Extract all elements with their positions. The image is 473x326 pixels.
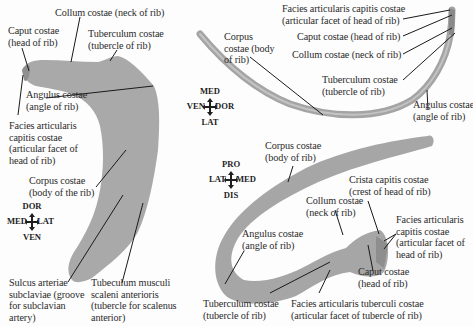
label-tuberculum-costae-first: Tuberculum costae (tubercle of rib) (88, 28, 164, 51)
orientation-compass-first: DOR MED LAT VEN (8, 202, 56, 242)
label-sulcus-arteriae: Sulcus arteriae subclaviae (groove for s… (9, 277, 84, 323)
label-collum-costae-posterior: Collum costae (neck of rib) (306, 195, 363, 218)
compass-right: MED (236, 175, 256, 184)
compass-left: MED (7, 217, 27, 226)
compass-right: LAT (37, 217, 54, 226)
label-tuberculum-costae-posterior: Tuberculum costae (tubercle of rib) (203, 298, 279, 321)
orientation-compass-posterior: PRO LAT MED DIS (207, 160, 255, 200)
orientation-compass-lateral: MED VEN DOR LAT (186, 87, 234, 127)
compass-top: DOR (8, 202, 56, 211)
label-collum-costae-lateral: Collum costae (neck of rib) (292, 49, 401, 61)
compass-bottom: VEN (8, 233, 56, 242)
label-tuberculum-costae-lateral: Tuberculum costae (tubercle of rib) (322, 74, 398, 97)
rib-anatomy-figure: Collum costae (neck of rib) Caput costae… (0, 0, 473, 326)
compass-bottom: LAT (186, 118, 234, 127)
compass-bottom: DIS (207, 191, 255, 200)
label-collum-costae-first: Collum costae (neck of rib) (55, 7, 164, 19)
label-angulus-costae-posterior: Angulus costae (angle of rib) (242, 228, 303, 251)
label-facies-articularis-lateral: Facies articularis capitis costae (artic… (282, 3, 405, 26)
label-angulus-costae-lateral: Angulus costae (angle of rib) (413, 99, 473, 122)
label-caput-costae-first: Caput costae (head of rib) (8, 25, 59, 48)
compass-right: DOR (215, 102, 234, 111)
label-corpus-costae-posterior: Corpus costae (body of rib) (265, 140, 321, 163)
label-corpus-costae-first: Corpus costae (body of the rib) (29, 175, 94, 198)
label-facies-articularis-tuberculi: Facies articularis tuberculi costae (art… (291, 298, 424, 321)
compass-top: MED (186, 87, 234, 96)
label-angulus-costae-first: Angulus costae (angle of rib) (26, 89, 87, 112)
label-corpus-costae-lateral: Corpus costae (body of rib) (224, 31, 275, 66)
label-crista-capitis: Crista capitis costae (crest of head of … (349, 174, 431, 197)
label-facies-articularis-first: Facies articularis capitis costae (artic… (9, 120, 78, 166)
label-caput-costae-posterior: Caput costae (head of rib) (358, 266, 409, 289)
label-tuberculum-scaleni: Tubeculum musculi scaleni anterioris (tu… (91, 277, 176, 323)
compass-top: PRO (207, 160, 255, 169)
label-facies-articularis-posterior: Facies articularis capitis costae (artic… (396, 214, 465, 260)
label-caput-costae-lateral: Caput costae (head of rib) (297, 31, 400, 43)
rib-lateral-head (449, 8, 455, 36)
